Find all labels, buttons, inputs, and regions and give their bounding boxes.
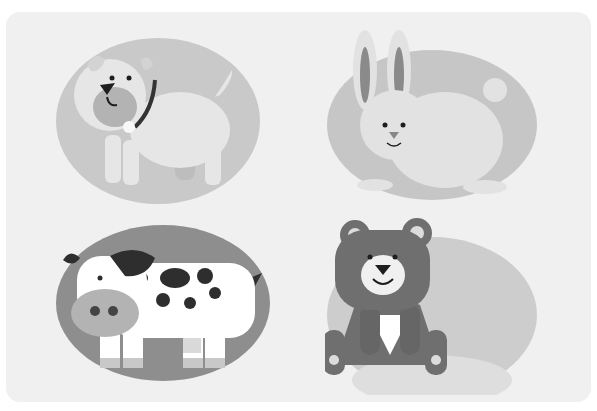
dog-panel: [55, 35, 265, 205]
bear-illustration: [325, 215, 540, 395]
bear-panel: [325, 215, 540, 395]
dog-illustration: [55, 35, 265, 205]
cow-panel: [55, 218, 270, 388]
rabbit-illustration: [325, 25, 540, 205]
rabbit-panel: [325, 25, 540, 205]
cow-illustration: [55, 218, 270, 388]
